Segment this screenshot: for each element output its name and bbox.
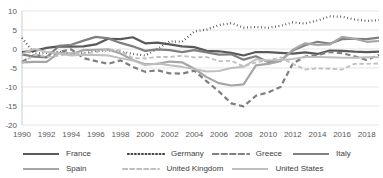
- legend-swatch-dashed-light: [122, 164, 160, 174]
- legend-label: France: [66, 149, 91, 158]
- x-axis-tick-label: 2000: [136, 130, 154, 139]
- x-axis-tick-label: 2004: [185, 130, 203, 139]
- x-axis-tick-label: 2008: [235, 130, 253, 139]
- legend-item-spain[interactable]: Spain: [22, 161, 86, 176]
- legend-item-united-kingdom[interactable]: United Kingdom: [122, 161, 223, 176]
- x-axis-tick-label: 2018: [358, 130, 376, 139]
- chart-legend: FranceGermanyGreeceItalySpainUnited King…: [0, 146, 383, 178]
- legend-swatch-solid-gray: [22, 164, 60, 174]
- legend-swatch-solid-medium: [292, 149, 330, 159]
- legend-label: United Kingdom: [166, 164, 223, 173]
- legend-swatch-solid-dark-thick: [22, 149, 60, 159]
- y-axis-tick-label: 0: [13, 45, 18, 54]
- legend-item-france[interactable]: France: [22, 146, 91, 161]
- line-chart: 1050-5-10-15-201990199219941996199820002…: [0, 0, 383, 178]
- legend-item-italy[interactable]: Italy: [292, 146, 351, 161]
- y-axis-tick-label: -20: [5, 121, 17, 130]
- legend-label: Spain: [66, 164, 86, 173]
- x-axis-tick-label: 1990: [13, 130, 31, 139]
- legend-label: Greece: [256, 149, 282, 158]
- legend-label: Italy: [336, 149, 351, 158]
- y-axis-tick-label: 5: [13, 26, 18, 35]
- x-axis-tick-label: 1998: [112, 130, 130, 139]
- x-axis-tick-label: 2006: [210, 130, 228, 139]
- y-axis-tick-label: -10: [5, 83, 17, 92]
- legend-item-greece[interactable]: Greece: [212, 146, 282, 161]
- x-axis-tick-label: 2010: [259, 130, 277, 139]
- legend-swatch-dashed: [212, 149, 250, 159]
- y-axis-tick-label: -15: [5, 102, 17, 111]
- x-axis-tick-label: 2016: [333, 130, 351, 139]
- x-axis-tick-label: 2014: [309, 130, 327, 139]
- x-axis-tick-label: 1996: [87, 130, 105, 139]
- legend-label: Germany: [171, 149, 204, 158]
- legend-item-germany[interactable]: Germany: [127, 146, 204, 161]
- legend-swatch-dotted: [127, 149, 165, 159]
- y-axis-tick-label: -5: [10, 64, 18, 73]
- x-axis-tick-label: 1994: [62, 130, 80, 139]
- legend-row: SpainUnited KingdomUnited States: [0, 161, 383, 176]
- legend-row: FranceGermanyGreeceItaly: [0, 146, 383, 161]
- x-axis-tick-label: 2012: [284, 130, 302, 139]
- legend-label: United States: [275, 164, 323, 173]
- x-axis-tick-label: 1992: [38, 130, 56, 139]
- legend-item-united-states[interactable]: United States: [231, 161, 323, 176]
- y-axis-tick-label: 10: [8, 7, 17, 16]
- x-axis-tick-label: 2002: [161, 130, 179, 139]
- legend-swatch-solid-light: [231, 164, 269, 174]
